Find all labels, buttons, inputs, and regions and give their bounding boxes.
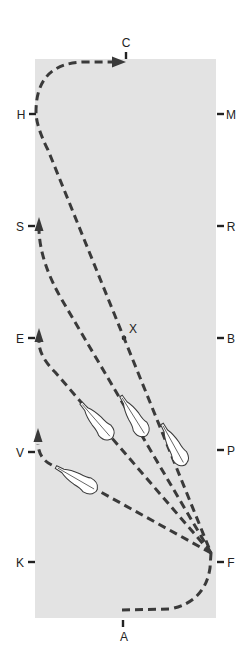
marker-k: K (16, 556, 35, 570)
marker-a-label: A (120, 630, 128, 644)
marker-x-label: X (129, 322, 137, 336)
marker-f-label: F (227, 556, 234, 570)
marker-e: E (16, 332, 35, 346)
marker-v-label: V (16, 446, 24, 460)
marker-h: H (17, 108, 36, 122)
marker-a: A (120, 620, 128, 644)
marker-r-label: R (227, 220, 236, 234)
marker-s: S (16, 220, 35, 234)
marker-c-label: C (122, 36, 131, 50)
marker-p-label: P (227, 444, 235, 458)
marker-b: B (217, 332, 235, 346)
marker-h-label: H (17, 108, 26, 122)
marker-s-label: S (16, 220, 24, 234)
marker-f: F (217, 556, 235, 570)
marker-m-label: M (226, 108, 236, 122)
marker-c: C (122, 36, 131, 59)
marker-p: P (217, 444, 235, 458)
marker-e-label: E (16, 332, 24, 346)
arena-diagram: C A H S E V K M R B P F (0, 0, 252, 668)
marker-r: R (217, 220, 236, 234)
marker-m: M (217, 108, 236, 122)
marker-v: V (16, 446, 35, 460)
marker-k-label: K (16, 556, 24, 570)
marker-b-label: B (227, 332, 235, 346)
